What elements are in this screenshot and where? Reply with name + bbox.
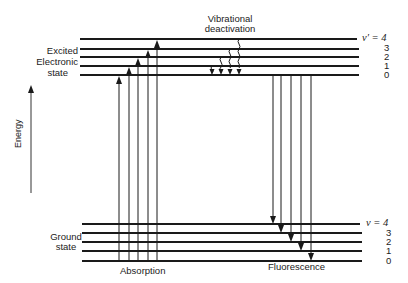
wavy-arrow-2 — [220, 57, 222, 70]
ground-state-levels — [82, 224, 362, 261]
excited-label-line3: state — [36, 67, 78, 78]
energy-axis-arrow — [28, 85, 34, 193]
absorption-label: Absorption — [120, 266, 165, 276]
ground-v-symbol: v = 4 — [366, 218, 388, 229]
excited-v-symbol: v′ = 4 — [362, 33, 387, 44]
excited-label-line2: Electronic — [36, 56, 78, 67]
energy-axis-label: Energy — [14, 119, 23, 148]
vib-label-line2: deactivation — [200, 24, 260, 34]
fluorescence-label: Fluorescence — [268, 262, 325, 272]
absorption-arrows — [116, 40, 160, 261]
excited-state-label: Excited Electronic state — [36, 45, 78, 78]
ground-state-label: Ground state — [46, 232, 86, 252]
excited-label-line1: Excited — [36, 45, 78, 56]
vibrational-deactivation-label: Vibrational deactivation — [200, 14, 260, 34]
excited-v-0: 0 — [384, 70, 389, 80]
ground-v-0: 0 — [386, 256, 391, 266]
ground-label-line2: state — [46, 242, 86, 252]
wavy-arrow-4 — [238, 39, 240, 68]
